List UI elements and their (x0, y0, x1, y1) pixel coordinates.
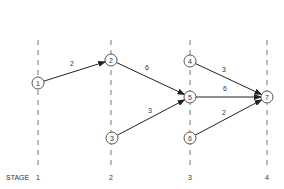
edge-weight-4-7: 3 (222, 66, 226, 73)
edge-weight-2-5: 6 (145, 64, 149, 71)
stage-number-1: 1 (36, 174, 40, 181)
node-7: 7 (261, 91, 273, 103)
node-label: 5 (188, 94, 192, 101)
edges: 263362 (44, 60, 262, 135)
stage-title: STAGE (6, 174, 30, 181)
edge-4-7 (195, 64, 261, 95)
edge-weight-6-7: 2 (222, 109, 226, 116)
stage-number-3: 3 (188, 174, 192, 181)
nodes: 1234567 (32, 54, 273, 144)
node-label: 7 (265, 94, 269, 101)
stage-number-4: 4 (265, 174, 269, 181)
node-6: 6 (184, 132, 196, 144)
edge-weight-3-5: 3 (148, 107, 152, 114)
edge-3-5 (117, 100, 184, 135)
stage-network-diagram: 263362 1234567 STAGE 1234 (0, 0, 284, 189)
node-4: 4 (184, 55, 196, 67)
edge-6-7 (195, 100, 261, 135)
node-1: 1 (32, 77, 44, 89)
node-label: 2 (109, 57, 113, 64)
stage-labels: STAGE 1234 (6, 174, 269, 181)
node-label: 4 (188, 58, 192, 65)
node-label: 3 (110, 135, 114, 142)
node-label: 1 (36, 80, 40, 87)
node-3: 3 (106, 132, 118, 144)
node-5: 5 (184, 91, 196, 103)
edge-1-2 (44, 62, 106, 81)
edge-weight-5-7: 6 (223, 85, 227, 92)
stage-number-2: 2 (109, 174, 113, 181)
edge-weight-1-2: 2 (70, 60, 74, 67)
node-label: 6 (188, 135, 192, 142)
edge-2-5 (116, 63, 184, 95)
node-2: 2 (105, 54, 117, 66)
